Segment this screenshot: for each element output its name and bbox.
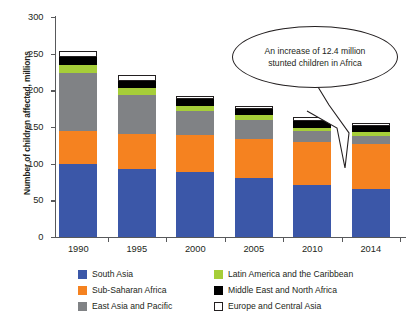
bar-segment bbox=[352, 189, 390, 237]
y-tick-label: 300 bbox=[28, 13, 44, 22]
x-tick bbox=[342, 237, 343, 242]
bar-segment bbox=[235, 139, 273, 179]
bar-segment bbox=[118, 88, 156, 95]
legend-swatch bbox=[214, 302, 223, 311]
y-tick bbox=[51, 17, 56, 18]
bar-segment bbox=[118, 169, 156, 237]
bar-segment bbox=[352, 136, 390, 144]
x-tick-label: 2000 bbox=[185, 244, 206, 254]
callout-line-1: An increase of 12.4 million bbox=[265, 46, 366, 56]
bar-segment bbox=[176, 111, 214, 135]
bar-segment bbox=[293, 131, 331, 142]
bar-segment bbox=[176, 135, 214, 172]
x-tick-label: 1990 bbox=[68, 244, 89, 254]
bar-segment bbox=[235, 109, 273, 115]
bar-segment bbox=[59, 57, 97, 65]
bar-segment bbox=[293, 117, 331, 121]
legend-item[interactable]: Middle East and North Africa bbox=[214, 285, 400, 295]
bar-segment bbox=[59, 131, 97, 163]
legend-item[interactable]: Latin America and the Caribbean bbox=[214, 269, 400, 279]
legend-swatch bbox=[78, 302, 87, 311]
x-tick-label: 2005 bbox=[243, 244, 264, 254]
bar-1990[interactable] bbox=[59, 51, 97, 237]
legend-swatch bbox=[214, 270, 223, 279]
y-tick bbox=[51, 90, 56, 91]
y-tick-label: 200 bbox=[28, 86, 44, 95]
bar-segment bbox=[176, 172, 214, 237]
y-tick bbox=[51, 200, 56, 201]
bar-segment bbox=[59, 65, 97, 72]
y-tick-label: 0 bbox=[38, 233, 43, 242]
bar-segment bbox=[176, 99, 214, 106]
legend-swatch bbox=[214, 286, 223, 295]
legend-label: Sub-Saharan Africa bbox=[92, 285, 167, 295]
bar-segment bbox=[118, 81, 156, 88]
bar-2010[interactable] bbox=[293, 117, 331, 237]
legend-label: Europe and Central Asia bbox=[228, 301, 321, 311]
legend-item[interactable]: Sub-Saharan Africa bbox=[78, 285, 214, 295]
y-tick bbox=[51, 54, 56, 55]
bar-segment bbox=[59, 164, 97, 237]
chart-legend: South AsiaLatin America and the Caribbea… bbox=[78, 266, 398, 314]
chart-figure: Number of children affected, millions 05… bbox=[0, 0, 411, 317]
y-tick-label: 150 bbox=[28, 123, 44, 132]
legend-item[interactable]: Europe and Central Asia bbox=[214, 301, 400, 311]
bar-segment bbox=[118, 75, 156, 81]
legend-swatch bbox=[78, 270, 87, 279]
callout-line-2: stunted children in Africa bbox=[268, 58, 362, 68]
bar-2014[interactable] bbox=[352, 123, 390, 237]
legend-label: Latin America and the Caribbean bbox=[228, 269, 353, 279]
x-tick bbox=[400, 237, 401, 242]
bar-segment bbox=[293, 121, 331, 128]
bar-2000[interactable] bbox=[176, 96, 214, 237]
y-axis-line bbox=[55, 16, 56, 238]
y-tick bbox=[51, 127, 56, 128]
bar-segment bbox=[59, 73, 97, 132]
bar-segment bbox=[293, 128, 331, 132]
legend-label: Middle East and North Africa bbox=[228, 285, 337, 295]
bar-segment bbox=[235, 178, 273, 237]
x-tick-label: 2010 bbox=[302, 244, 323, 254]
legend-label: South Asia bbox=[92, 269, 133, 279]
bar-segment bbox=[352, 126, 390, 132]
bar-segment bbox=[352, 132, 390, 136]
y-tick bbox=[51, 237, 56, 238]
y-tick-label: 250 bbox=[28, 49, 44, 58]
legend-label: East Asia and Pacific bbox=[92, 301, 172, 311]
bar-segment bbox=[293, 142, 331, 185]
bar-segment bbox=[118, 95, 156, 134]
y-tick-label: 50 bbox=[33, 196, 43, 205]
y-tick-label: 100 bbox=[28, 159, 44, 168]
x-tick-label: 1995 bbox=[126, 244, 147, 254]
bar-segment bbox=[176, 106, 214, 111]
bar-segment bbox=[235, 115, 273, 119]
x-tick bbox=[108, 237, 109, 242]
legend-item[interactable]: East Asia and Pacific bbox=[78, 301, 214, 311]
x-tick-label: 2014 bbox=[360, 244, 381, 254]
bar-segment bbox=[235, 106, 273, 109]
bar-segment bbox=[59, 51, 97, 57]
callout-bubble: An increase of 12.4 million stunted chil… bbox=[232, 26, 398, 88]
bar-segment bbox=[352, 144, 390, 189]
bar-segment bbox=[293, 185, 331, 237]
bar-segment bbox=[118, 134, 156, 169]
x-tick bbox=[283, 237, 284, 242]
bar-segment bbox=[352, 123, 390, 126]
bar-2005[interactable] bbox=[235, 106, 273, 237]
y-tick bbox=[51, 164, 56, 165]
bar-1995[interactable] bbox=[118, 75, 156, 237]
callout-text: An increase of 12.4 million stunted chil… bbox=[233, 45, 397, 70]
legend-item[interactable]: South Asia bbox=[78, 269, 214, 279]
x-tick bbox=[166, 237, 167, 242]
x-tick bbox=[225, 237, 226, 242]
legend-swatch bbox=[78, 286, 87, 295]
bar-segment bbox=[176, 96, 214, 99]
bar-segment bbox=[235, 120, 273, 139]
